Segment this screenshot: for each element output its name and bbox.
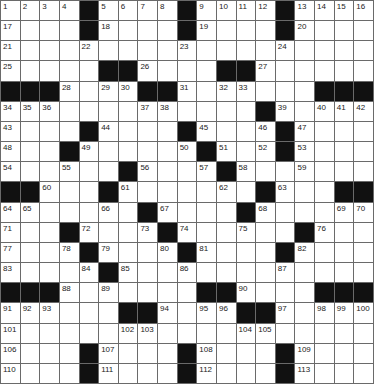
grid-cell[interactable]: 44 bbox=[99, 122, 119, 142]
grid-cell[interactable]: 93 bbox=[40, 303, 60, 323]
grid-cell[interactable] bbox=[40, 243, 60, 263]
grid-cell[interactable]: 8 bbox=[158, 1, 178, 21]
grid-cell[interactable] bbox=[197, 82, 217, 102]
grid-cell[interactable] bbox=[354, 41, 374, 61]
grid-cell[interactable] bbox=[276, 162, 296, 182]
grid-cell[interactable] bbox=[40, 122, 60, 142]
grid-cell[interactable] bbox=[354, 243, 374, 263]
grid-cell[interactable]: 3 bbox=[40, 1, 60, 21]
grid-cell[interactable] bbox=[80, 82, 100, 102]
grid-cell[interactable]: 58 bbox=[237, 162, 257, 182]
grid-cell[interactable] bbox=[295, 303, 315, 323]
grid-cell[interactable] bbox=[40, 203, 60, 223]
grid-cell[interactable]: 26 bbox=[138, 61, 158, 81]
grid-cell[interactable] bbox=[99, 223, 119, 243]
grid-cell[interactable] bbox=[197, 324, 217, 344]
grid-cell[interactable]: 65 bbox=[21, 203, 41, 223]
grid-cell[interactable]: 48 bbox=[1, 142, 21, 162]
grid-cell[interactable] bbox=[217, 223, 237, 243]
grid-cell[interactable]: 63 bbox=[276, 182, 296, 202]
grid-cell[interactable] bbox=[158, 21, 178, 41]
grid-cell[interactable] bbox=[217, 122, 237, 142]
grid-cell[interactable] bbox=[335, 344, 355, 364]
grid-cell[interactable] bbox=[335, 122, 355, 142]
grid-cell[interactable]: 32 bbox=[217, 82, 237, 102]
grid-cell[interactable] bbox=[237, 344, 257, 364]
grid-cell[interactable]: 12 bbox=[256, 1, 276, 21]
grid-cell[interactable] bbox=[197, 182, 217, 202]
grid-cell[interactable] bbox=[217, 324, 237, 344]
grid-cell[interactable] bbox=[276, 324, 296, 344]
grid-cell[interactable]: 112 bbox=[197, 364, 217, 384]
grid-cell[interactable]: 95 bbox=[197, 303, 217, 323]
grid-cell[interactable] bbox=[40, 61, 60, 81]
grid-cell[interactable]: 46 bbox=[256, 122, 276, 142]
grid-cell[interactable] bbox=[60, 61, 80, 81]
grid-cell[interactable]: 57 bbox=[197, 162, 217, 182]
grid-cell[interactable] bbox=[335, 263, 355, 283]
grid-cell[interactable] bbox=[119, 283, 139, 303]
grid-cell[interactable]: 53 bbox=[295, 142, 315, 162]
grid-cell[interactable] bbox=[60, 21, 80, 41]
grid-cell[interactable] bbox=[295, 182, 315, 202]
grid-cell[interactable] bbox=[295, 283, 315, 303]
grid-cell[interactable] bbox=[354, 344, 374, 364]
grid-cell[interactable] bbox=[315, 364, 335, 384]
grid-cell[interactable]: 80 bbox=[158, 243, 178, 263]
grid-cell[interactable] bbox=[315, 203, 335, 223]
grid-cell[interactable] bbox=[276, 223, 296, 243]
grid-cell[interactable] bbox=[99, 303, 119, 323]
grid-cell[interactable] bbox=[80, 203, 100, 223]
grid-cell[interactable] bbox=[256, 364, 276, 384]
grid-cell[interactable] bbox=[99, 41, 119, 61]
grid-cell[interactable]: 37 bbox=[138, 102, 158, 122]
grid-cell[interactable]: 15 bbox=[335, 1, 355, 21]
grid-cell[interactable] bbox=[40, 263, 60, 283]
grid-cell[interactable]: 87 bbox=[276, 263, 296, 283]
grid-cell[interactable] bbox=[335, 243, 355, 263]
grid-cell[interactable]: 113 bbox=[295, 364, 315, 384]
grid-cell[interactable]: 96 bbox=[217, 303, 237, 323]
grid-cell[interactable] bbox=[217, 21, 237, 41]
grid-cell[interactable] bbox=[217, 243, 237, 263]
grid-cell[interactable]: 74 bbox=[178, 223, 198, 243]
grid-cell[interactable] bbox=[256, 41, 276, 61]
grid-cell[interactable] bbox=[295, 102, 315, 122]
grid-cell[interactable]: 61 bbox=[119, 182, 139, 202]
grid-cell[interactable] bbox=[138, 142, 158, 162]
grid-cell[interactable]: 52 bbox=[256, 142, 276, 162]
grid-cell[interactable]: 54 bbox=[1, 162, 21, 182]
grid-cell[interactable]: 55 bbox=[60, 162, 80, 182]
grid-cell[interactable] bbox=[138, 122, 158, 142]
grid-cell[interactable] bbox=[295, 263, 315, 283]
grid-cell[interactable] bbox=[354, 122, 374, 142]
grid-cell[interactable] bbox=[60, 344, 80, 364]
grid-cell[interactable] bbox=[276, 203, 296, 223]
grid-cell[interactable] bbox=[158, 283, 178, 303]
grid-cell[interactable] bbox=[237, 122, 257, 142]
grid-cell[interactable] bbox=[21, 364, 41, 384]
grid-cell[interactable] bbox=[237, 364, 257, 384]
grid-cell[interactable] bbox=[158, 41, 178, 61]
grid-cell[interactable] bbox=[40, 223, 60, 243]
grid-cell[interactable]: 66 bbox=[99, 203, 119, 223]
grid-cell[interactable]: 35 bbox=[21, 102, 41, 122]
grid-cell[interactable] bbox=[40, 344, 60, 364]
grid-cell[interactable]: 5 bbox=[99, 1, 119, 21]
grid-cell[interactable] bbox=[178, 162, 198, 182]
grid-cell[interactable] bbox=[60, 263, 80, 283]
grid-cell[interactable]: 18 bbox=[99, 21, 119, 41]
grid-cell[interactable] bbox=[21, 41, 41, 61]
grid-cell[interactable] bbox=[21, 223, 41, 243]
grid-cell[interactable]: 29 bbox=[99, 82, 119, 102]
grid-cell[interactable] bbox=[80, 283, 100, 303]
grid-cell[interactable] bbox=[80, 162, 100, 182]
grid-cell[interactable] bbox=[60, 182, 80, 202]
grid-cell[interactable]: 90 bbox=[237, 283, 257, 303]
grid-cell[interactable] bbox=[138, 182, 158, 202]
grid-cell[interactable]: 47 bbox=[295, 122, 315, 142]
grid-cell[interactable]: 19 bbox=[197, 21, 217, 41]
grid-cell[interactable] bbox=[354, 61, 374, 81]
grid-cell[interactable] bbox=[256, 162, 276, 182]
grid-cell[interactable]: 97 bbox=[276, 303, 296, 323]
